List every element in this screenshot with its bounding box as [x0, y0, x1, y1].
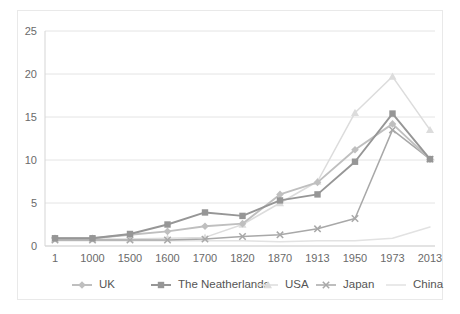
y-axis-tick-labels: 0510152025 — [25, 25, 37, 252]
chart-plot-area: 0510152025 11000150016001700182018701913… — [0, 0, 460, 314]
x-tick-label: 1000 — [80, 252, 104, 264]
x-tick-label: 1500 — [118, 252, 142, 264]
y-tick-label: 25 — [25, 25, 37, 37]
x-axis-tick-labels: 1100015001600170018201870191319501973201… — [52, 252, 442, 264]
legend-marker-icon — [158, 282, 164, 288]
data-point-marker — [201, 222, 209, 230]
y-tick-label: 0 — [31, 240, 37, 252]
legend-item-the-neatherlands[interactable]: The Neatherlands — [151, 278, 270, 290]
y-tick-label: 20 — [25, 68, 37, 80]
x-tick-label: 1700 — [193, 252, 217, 264]
legend-item-japan[interactable]: Japan — [316, 278, 374, 290]
data-point-marker — [352, 159, 358, 165]
x-tick-label: 2013 — [418, 252, 442, 264]
data-point-marker — [239, 213, 245, 219]
legend-label: The Neatherlands — [178, 278, 270, 290]
data-point-marker — [89, 235, 95, 241]
x-tick-label: 1973 — [380, 252, 404, 264]
legend-label: China — [413, 278, 444, 290]
legend-label: Japan — [343, 278, 374, 290]
y-tick-label: 10 — [25, 154, 37, 166]
data-point-marker — [164, 221, 170, 227]
x-tick-label: 1913 — [305, 252, 329, 264]
chart-legend: UKThe NeatherlandsUSAJapanChina — [72, 278, 444, 290]
y-tick-label: 15 — [25, 111, 37, 123]
legend-item-uk[interactable]: UK — [72, 278, 115, 290]
x-tick-label: 1 — [52, 252, 58, 264]
data-point-marker — [52, 235, 58, 241]
data-point-marker — [202, 209, 208, 215]
data-point-marker — [164, 228, 172, 236]
data-point-marker — [427, 156, 433, 162]
data-point-marker — [127, 231, 133, 237]
legend-marker-icon — [78, 281, 86, 289]
x-tick-label: 1870 — [268, 252, 292, 264]
legend-item-china[interactable]: China — [386, 278, 444, 290]
line-chart-svg: 0510152025 11000150016001700182018701913… — [0, 0, 460, 314]
series-uk — [51, 120, 434, 242]
legend-label: USA — [285, 278, 309, 290]
data-point-marker — [314, 191, 320, 197]
series-layer — [51, 73, 434, 244]
x-tick-label: 1950 — [343, 252, 367, 264]
data-point-marker — [389, 110, 395, 116]
x-tick-label: 1820 — [230, 252, 254, 264]
x-tick-label: 1600 — [155, 252, 179, 264]
y-tick-label: 5 — [31, 197, 37, 209]
data-point-marker — [277, 197, 283, 203]
legend-label: UK — [99, 278, 115, 290]
